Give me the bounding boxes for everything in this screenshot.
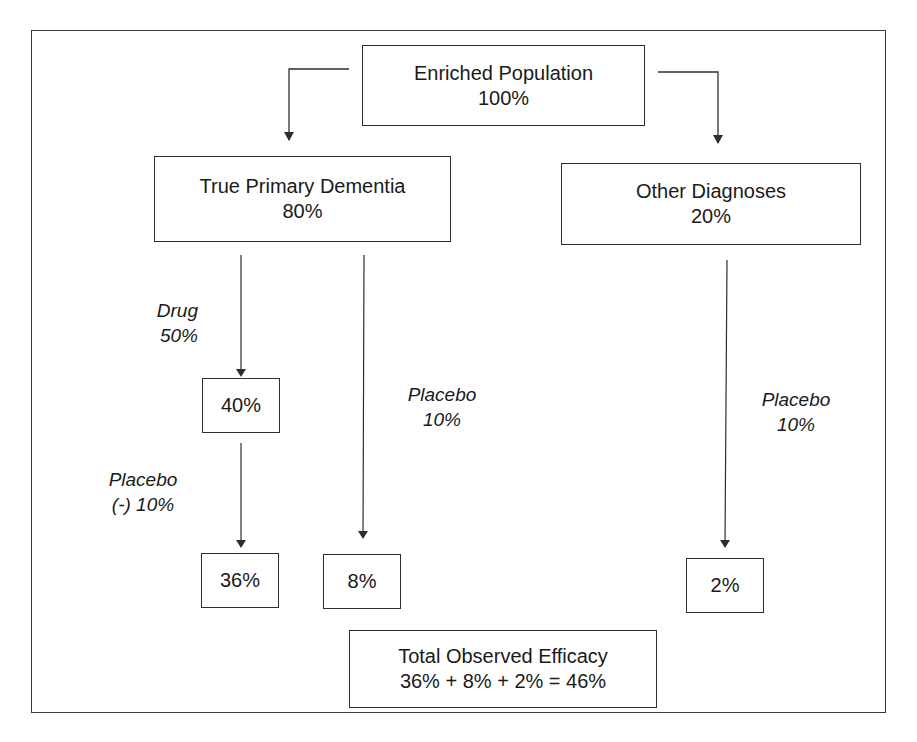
node-total-observed-efficacy: Total Observed Efficacy 36% + 8% + 2% = … — [349, 630, 657, 708]
edge-label-line: Placebo — [392, 382, 492, 407]
node-other-diagnoses: Other Diagnoses 20% — [561, 163, 861, 245]
edge-label-line: Drug — [138, 298, 198, 323]
node-value: 80% — [282, 199, 322, 224]
edge-label-placebo-tpd: Placebo 10% — [392, 382, 492, 432]
arrow-root-to-tpd — [289, 69, 349, 140]
node-value: 36% — [220, 568, 260, 593]
arrow-placebo-other — [725, 260, 727, 545]
edge-label-drug: Drug 50% — [138, 298, 198, 348]
node-title: Enriched Population — [414, 61, 593, 86]
node-value: 2% — [711, 573, 740, 598]
total-title: Total Observed Efficacy — [398, 644, 608, 669]
node-placebo-tpd-result: 8% — [323, 554, 401, 609]
edge-label-placebo-other: Placebo 10% — [746, 387, 846, 437]
arrowhead-icon — [713, 135, 723, 144]
node-true-primary-dementia: True Primary Dementia 80% — [154, 156, 451, 242]
node-value: 8% — [348, 569, 377, 594]
total-equation: 36% + 8% + 2% = 46% — [400, 669, 606, 694]
node-value: 40% — [221, 393, 261, 418]
node-drug-result: 40% — [202, 378, 280, 433]
arrowhead-icon — [720, 540, 730, 548]
node-placebo-other-result: 2% — [686, 558, 764, 613]
node-drug-minus-placebo: 36% — [201, 553, 279, 608]
arrowhead-icon — [236, 540, 246, 548]
edge-label-line: 10% — [392, 407, 492, 432]
edge-label-line: (-) 10% — [93, 492, 193, 517]
node-title: Other Diagnoses — [636, 179, 786, 204]
node-value: 100% — [478, 86, 529, 111]
arrowhead-icon — [236, 369, 246, 377]
edge-label-line: Placebo — [746, 387, 846, 412]
arrow-root-to-other — [658, 72, 718, 143]
node-value: 20% — [691, 204, 731, 229]
edge-label-line: 50% — [138, 323, 198, 348]
arrow-placebo-tpd — [363, 255, 364, 536]
arrowhead-icon — [284, 132, 294, 141]
node-enriched-population: Enriched Population 100% — [362, 45, 645, 126]
edge-label-line: Placebo — [93, 467, 193, 492]
edge-label-placebo-negative: Placebo (-) 10% — [93, 467, 193, 517]
node-title: True Primary Dementia — [200, 174, 406, 199]
edge-label-line: 10% — [746, 412, 846, 437]
arrowhead-icon — [358, 531, 368, 539]
